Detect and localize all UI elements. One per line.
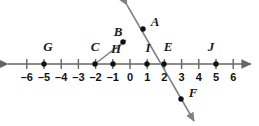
- point-j: [213, 61, 218, 66]
- label-h: H: [111, 42, 121, 55]
- tick-label-2: 2: [161, 72, 167, 83]
- point-b: [120, 39, 125, 44]
- tick-label-5: 5: [213, 72, 219, 83]
- point-g: [41, 61, 46, 66]
- point-e: [161, 61, 166, 66]
- label-j: J: [208, 40, 215, 53]
- slanted-line: [127, 5, 194, 121]
- tick-label-neg3: –3: [72, 72, 84, 83]
- tick-label-4: 4: [196, 72, 202, 83]
- point-a: [140, 26, 145, 31]
- tick-label-neg6: –6: [21, 72, 33, 83]
- label-b: B: [114, 25, 123, 38]
- tick-label-neg1: –1: [107, 72, 119, 83]
- tick-label-neg2: –2: [89, 72, 101, 83]
- figure-canvas: [0, 0, 259, 126]
- tick-label-6: 6: [230, 72, 236, 83]
- point-c: [92, 61, 97, 66]
- point-h: [110, 61, 115, 66]
- point-f: [178, 96, 183, 101]
- tick-label-1: 1: [144, 72, 150, 83]
- tick-label-3: 3: [179, 72, 185, 83]
- label-e: E: [164, 40, 173, 53]
- tick-label-0: 0: [127, 72, 133, 83]
- label-g: G: [43, 40, 52, 53]
- label-a: A: [151, 15, 160, 28]
- label-c: C: [91, 40, 100, 53]
- label-f: F: [189, 86, 198, 99]
- tick-label-neg5: –5: [38, 72, 50, 83]
- number-line-figure: GCHIEJABF –6–5–4–3–2–10123456: [0, 0, 259, 126]
- point-i: [144, 61, 149, 66]
- line-through-A-E-F: [127, 5, 194, 121]
- tick-label-neg4: –4: [55, 72, 67, 83]
- label-i: I: [145, 41, 150, 54]
